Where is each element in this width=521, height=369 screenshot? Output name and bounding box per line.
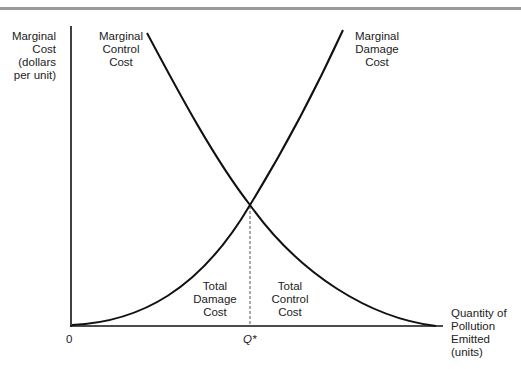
label-line: Damage xyxy=(348,43,406,56)
label-line: Marginal xyxy=(348,30,406,43)
label-line: Damage xyxy=(190,293,240,306)
y-axis-label-line: (dollars xyxy=(4,56,56,69)
cost-diagram xyxy=(0,0,521,369)
y-axis-label-line: Marginal xyxy=(4,30,56,43)
label-line: Marginal xyxy=(92,30,150,43)
label-line: Cost xyxy=(348,56,406,69)
label-line: Control xyxy=(92,43,150,56)
x-axis-label-line: (units) xyxy=(451,346,521,359)
total-control-cost-label: Total Control Cost xyxy=(265,280,315,319)
total-damage-cost-label: Total Damage Cost xyxy=(190,280,240,319)
label-line: Cost xyxy=(265,306,315,319)
marginal-control-cost-label: Marginal Control Cost xyxy=(92,30,150,69)
label-line: Control xyxy=(265,293,315,306)
label-line: Total xyxy=(265,280,315,293)
x-axis-label: Quantity of Pollution Emitted (units) xyxy=(451,307,521,359)
x-axis-label-line: Emitted xyxy=(451,333,521,346)
y-axis-label: Marginal Cost (dollars per unit) xyxy=(4,30,56,82)
origin-label: 0 xyxy=(66,333,72,346)
label-line: Cost xyxy=(190,306,240,319)
label-line: Cost xyxy=(92,56,150,69)
marginal-damage-cost-label: Marginal Damage Cost xyxy=(348,30,406,69)
x-axis-label-line: Pollution xyxy=(451,320,521,333)
y-axis-label-line: per unit) xyxy=(4,69,56,82)
y-axis-label-line: Cost xyxy=(4,43,56,56)
x-axis-label-line: Quantity of xyxy=(451,307,521,320)
label-line: Total xyxy=(190,280,240,293)
q-star-label: Q* xyxy=(243,333,256,346)
